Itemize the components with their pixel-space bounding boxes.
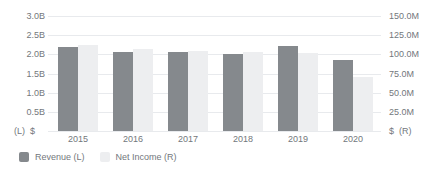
revenue-bar-2016[interactable] bbox=[113, 52, 133, 131]
revenue-bar-2017[interactable] bbox=[168, 52, 188, 131]
revenue-bar-2020[interactable] bbox=[333, 60, 353, 131]
revenue-swatch-icon bbox=[19, 152, 29, 162]
y-axis-right-tick: 75.0M bbox=[389, 69, 431, 79]
x-axis-label-2015: 2015 bbox=[56, 134, 100, 144]
x-axis-label-2017: 2017 bbox=[166, 134, 210, 144]
bar-group-2019 bbox=[278, 46, 318, 131]
gridline bbox=[48, 16, 381, 17]
bar-group-2016 bbox=[113, 49, 153, 131]
bar-group-2018 bbox=[223, 52, 263, 131]
y-axis-left-tick: 2.0B bbox=[0, 49, 45, 59]
gridline bbox=[48, 131, 381, 132]
legend-item-revenue: Revenue (L) bbox=[19, 151, 85, 163]
x-axis-label-2020: 2020 bbox=[331, 134, 375, 144]
legend-label-net-income: Net Income (R) bbox=[116, 151, 177, 163]
plot-area bbox=[48, 16, 381, 131]
y-axis-left-tick: 1.0B bbox=[0, 88, 45, 98]
bar-group-2015 bbox=[58, 45, 98, 131]
bar-group-2020 bbox=[333, 60, 373, 131]
revenue-bar-2015[interactable] bbox=[58, 47, 78, 131]
legend-item-net-income: Net Income (R) bbox=[100, 151, 177, 163]
y-axis-right-tick: 25.0M bbox=[389, 107, 431, 117]
right-axis-unit-label: $ (R) bbox=[389, 126, 431, 136]
y-axis-left-tick: 3.0B bbox=[0, 11, 45, 21]
revenue-bar-2019[interactable] bbox=[278, 46, 298, 131]
x-axis-label-2018: 2018 bbox=[221, 134, 265, 144]
y-axis-right-tick: 100.0M bbox=[389, 49, 431, 59]
left-axis-unit-label: (L) $ bbox=[14, 126, 45, 136]
net-income-bar-2015[interactable] bbox=[78, 45, 98, 131]
net-income-bar-2019[interactable] bbox=[298, 53, 318, 131]
net-income-bar-2020[interactable] bbox=[353, 77, 373, 131]
net-income-swatch-icon bbox=[100, 152, 110, 162]
y-axis-right-tick: 125.0M bbox=[389, 30, 431, 40]
y-axis-right-tick: 50.0M bbox=[389, 88, 431, 98]
y-axis-left-tick: 0.5B bbox=[0, 107, 45, 117]
gridline bbox=[48, 35, 381, 36]
legend-label-revenue: Revenue (L) bbox=[35, 151, 85, 163]
y-axis-left-tick: 2.5B bbox=[0, 30, 45, 40]
bar-group-2017 bbox=[168, 51, 208, 132]
x-axis-label-2019: 2019 bbox=[276, 134, 320, 144]
y-axis-left-tick: 1.5B bbox=[0, 69, 45, 79]
x-axis-label-2016: 2016 bbox=[111, 134, 155, 144]
net-income-bar-2017[interactable] bbox=[188, 51, 208, 132]
chart-legend: Revenue (L) Net Income (R) bbox=[19, 151, 192, 163]
financials-bar-chart: (L) $ $ (R) Revenue (L) Net Income (R) 2… bbox=[0, 0, 431, 169]
net-income-bar-2016[interactable] bbox=[133, 49, 153, 131]
y-axis-right-tick: 150.0M bbox=[389, 11, 431, 21]
net-income-bar-2018[interactable] bbox=[243, 52, 263, 131]
revenue-bar-2018[interactable] bbox=[223, 54, 243, 131]
